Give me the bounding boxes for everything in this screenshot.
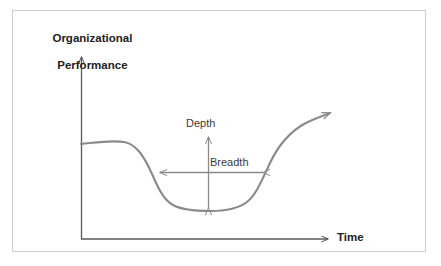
y-axis-title: Organizational Performance — [26, 18, 146, 86]
y-axis-title-line1: Organizational — [52, 32, 132, 44]
breadth-label: Breadth — [210, 156, 249, 169]
x-axis-title: Time — [337, 231, 364, 245]
depth-label: Depth — [186, 117, 215, 130]
y-axis-title-line2: Performance — [57, 59, 127, 71]
figure-canvas: Organizational Performance Time Depth Br… — [0, 0, 441, 266]
